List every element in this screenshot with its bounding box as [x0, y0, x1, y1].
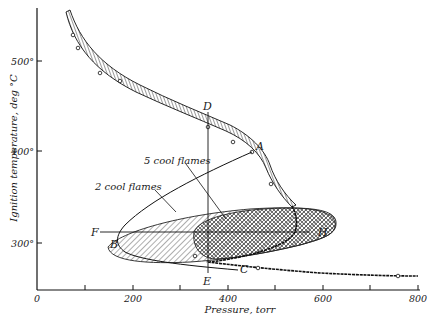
label-D: D [202, 100, 212, 113]
x-tick-800: 800 [409, 293, 427, 304]
y-axis-title: Ignition temperature, deg °C [8, 74, 19, 223]
upper-ignition-band [66, 10, 296, 207]
x-axis-title: Pressure, torr [204, 304, 277, 315]
leader-2-cool-flames [155, 190, 176, 212]
label-C: C [240, 263, 249, 276]
annotation-5-cool-flames: 5 cool flames [144, 155, 211, 166]
x-tick-600: 600 [314, 293, 332, 304]
label-E: E [202, 275, 211, 288]
annotation-2-cool-flames: 2 cool flames [94, 181, 162, 192]
x-tick-400: 400 [218, 293, 237, 304]
x-tick-0: 0 [34, 293, 40, 304]
label-B: B [109, 238, 118, 251]
x-tick-200: 200 [123, 293, 142, 304]
ignition-temperature-chart: 500° 400° 300° 0 200 400 600 800 Pressur… [0, 0, 435, 322]
leader-5-cool-flames [186, 164, 226, 219]
y-tick-500: 500° [11, 56, 34, 67]
y-tick-300: 300° [11, 238, 34, 249]
label-A: A [255, 140, 264, 153]
label-H: H [317, 226, 328, 239]
label-F: F [90, 226, 99, 239]
